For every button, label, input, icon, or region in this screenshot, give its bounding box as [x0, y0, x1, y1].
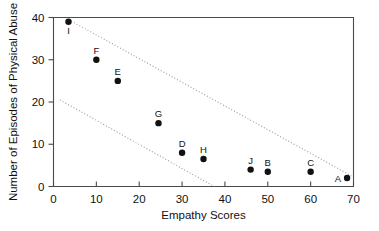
data-point-marker — [179, 150, 185, 156]
y-axis-ticks — [49, 18, 54, 187]
data-point: F — [93, 45, 99, 63]
data-point-marker — [93, 57, 99, 63]
data-point-marker — [200, 156, 206, 162]
data-point-marker — [265, 169, 271, 175]
data-point: H — [200, 144, 207, 162]
plot-canvas: IFEGDHJBCA 010203040 010203040506070 Emp… — [0, 0, 379, 231]
y-tick-label: 0 — [38, 181, 44, 193]
y-tick-label: 20 — [32, 96, 45, 108]
x-axis-tick-labels: 010203040506070 — [50, 193, 360, 205]
upper-boundary-line — [69, 20, 352, 176]
y-tick-label: 40 — [32, 12, 45, 24]
data-point-marker — [155, 120, 161, 126]
y-tick-label: 30 — [32, 54, 45, 66]
y-axis-tick-labels: 010203040 — [32, 12, 45, 193]
data-point-label: J — [248, 155, 253, 166]
data-point-marker — [247, 166, 253, 172]
data-point-label: E — [115, 66, 121, 77]
x-tick-label: 70 — [347, 193, 360, 205]
data-points-group: IFEGDHJBCA — [65, 19, 350, 184]
data-point-label: F — [93, 45, 99, 56]
data-point: B — [265, 157, 271, 175]
data-point-label: C — [307, 157, 314, 168]
x-tick-label: 30 — [176, 193, 189, 205]
x-tick-label: 40 — [219, 193, 232, 205]
y-tick-label: 10 — [32, 138, 45, 150]
data-point-marker — [344, 175, 350, 181]
scatter-plot-figure: IFEGDHJBCA 010203040 010203040506070 Emp… — [0, 0, 379, 231]
data-point: E — [115, 66, 121, 84]
x-tick-label: 0 — [50, 193, 56, 205]
y-axis-title: Number of Episodes of Physical Abuse — [7, 3, 19, 201]
data-point-label: I — [67, 25, 70, 36]
x-tick-label: 20 — [133, 193, 146, 205]
data-point: C — [307, 157, 314, 175]
x-axis-title: Empathy Scores — [161, 209, 246, 221]
data-point-label: H — [200, 144, 207, 155]
data-point: J — [247, 155, 253, 173]
data-point-label: B — [265, 157, 271, 168]
data-point: G — [155, 108, 162, 126]
data-point-label: G — [155, 108, 162, 119]
x-tick-label: 10 — [90, 193, 103, 205]
data-point-label: A — [335, 173, 342, 184]
data-point: D — [179, 138, 186, 156]
data-point: I — [65, 19, 71, 36]
x-tick-label: 50 — [261, 193, 274, 205]
data-point-label: D — [179, 138, 186, 149]
lower-boundary-line — [60, 100, 214, 187]
data-point-marker — [115, 78, 121, 84]
x-tick-label: 60 — [304, 193, 317, 205]
data-point-marker — [307, 169, 313, 175]
x-axis-ticks — [54, 182, 354, 187]
